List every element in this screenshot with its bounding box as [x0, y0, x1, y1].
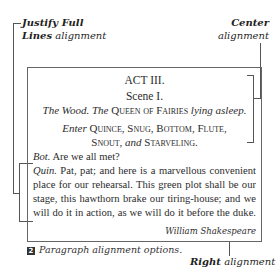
sample-text-box: ACT III. Scene I. The Wood. The Queen of…: [27, 67, 262, 242]
enter-line-1: Enter Quince, Snug, Bottom, Flute,: [28, 121, 261, 135]
act-heading: ACT III.: [28, 73, 261, 87]
bracket-lines-vertical: [19, 163, 20, 222]
scene-heading: Scene I.: [28, 89, 261, 103]
figure-caption: 2Paragraph alignment options.: [27, 244, 182, 255]
callout-right: Right alignment: [190, 256, 275, 268]
author-line: William Shakespeare: [165, 224, 256, 238]
callout-justify-full-label: Justify Full: [22, 17, 83, 28]
bot-line: Bot. Are we all met?: [33, 150, 120, 164]
setting-line: The Wood. The Queen of Fairies lying asl…: [28, 103, 261, 117]
callout-justify-full: Justify Full: [22, 17, 83, 29]
callout-lines-alignment: Lines alignment: [22, 30, 106, 42]
quin-paragraph: Quin. Pat, pat; and here is a marvellous…: [33, 164, 256, 220]
leader-right-vertical: [229, 242, 230, 256]
callout-center-alignment: alignment: [195, 30, 269, 42]
leader-justify-full-vertical: [13, 23, 14, 194]
leader-justify-full-top: [13, 23, 21, 24]
figure-number-badge: 2: [27, 247, 35, 255]
enter-line-2: Snout, and Starveling.: [28, 135, 261, 149]
callout-center: Center: [208, 17, 269, 29]
